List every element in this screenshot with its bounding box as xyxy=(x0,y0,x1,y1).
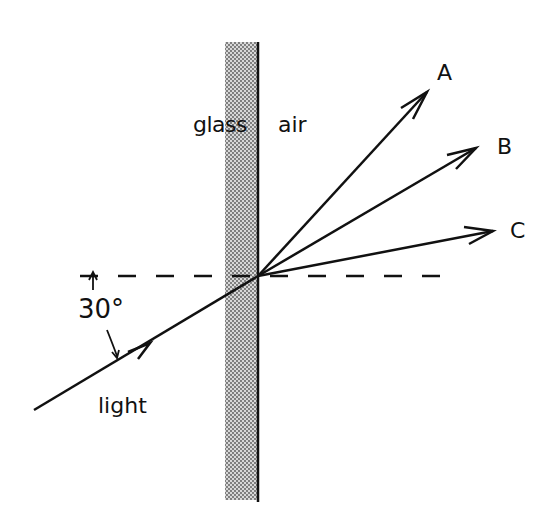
refracted-ray-b xyxy=(258,148,476,276)
refraction-diagram xyxy=(0,0,555,529)
refracted-ray-c xyxy=(258,227,493,276)
glass-slab xyxy=(225,42,258,502)
ray-c-label: C xyxy=(510,218,525,243)
light-label: light xyxy=(98,393,147,418)
arrow-head-icon xyxy=(128,343,150,359)
ray-b-label: B xyxy=(497,134,512,159)
incident-ray xyxy=(34,276,258,410)
angle-label: 30° xyxy=(78,294,124,324)
glass-label: glass xyxy=(193,112,247,137)
ray-a-label: A xyxy=(437,60,452,85)
air-label: air xyxy=(278,112,307,137)
arrow-head-icon xyxy=(447,148,476,169)
